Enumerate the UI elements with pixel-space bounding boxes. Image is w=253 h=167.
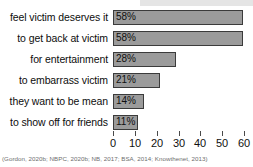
x-axis-tick (222, 131, 223, 136)
bar-they-want-to-be-mean: 14% (113, 94, 144, 109)
x-axis-tick-label: 50 (211, 137, 233, 149)
x-axis-tick-label: 10 (124, 137, 146, 149)
bar-row: feel victim deserves it 58% (0, 8, 253, 26)
bar-to-get-back-at-victim: 58% (113, 31, 243, 46)
plot-area: feel victim deserves it 58% to get back … (0, 8, 253, 132)
bar-row: to embarrass victim 21% (0, 71, 253, 89)
bar-chart: feel victim deserves it 58% to get back … (0, 0, 253, 167)
bar-value-label: 21% (114, 75, 136, 85)
bar-row: they want to be mean 14% (0, 92, 253, 110)
bar-value-label: 14% (114, 96, 136, 106)
x-axis-tick (113, 131, 114, 136)
bar-row: to show off for friends 11% (0, 113, 253, 131)
x-axis-tick (244, 131, 245, 136)
x-axis-tick (135, 131, 136, 136)
bar-value-label: 58% (114, 33, 136, 43)
category-label: to show off for friends (0, 117, 108, 128)
category-label: they want to be mean (0, 96, 108, 107)
category-label: to embarrass victim (0, 75, 108, 86)
x-axis-tick-label: 30 (168, 137, 190, 149)
x-axis-tick (179, 131, 180, 136)
bar-value-label: 58% (114, 12, 136, 22)
x-axis: 0 10 20 30 40 50 60 (0, 131, 253, 153)
bar-to-embarrass-victim: 21% (113, 73, 160, 88)
source-citation: (Gordon, 2020b; NBPC, 2020b; NB, 2017; B… (2, 155, 208, 163)
category-label: to get back at victim (0, 33, 108, 44)
x-axis-tick (200, 131, 201, 136)
x-axis-tick-label: 60 (233, 137, 253, 149)
bar-row: for entertainment 28% (0, 50, 253, 68)
bar-row: to get back at victim 58% (0, 29, 253, 47)
bar-to-show-off-for-friends: 11% (113, 115, 138, 130)
x-axis-tick-label: 40 (189, 137, 211, 149)
category-label: for entertainment (0, 54, 108, 65)
top-edge-artifact (140, 0, 253, 6)
x-axis-tick-label: 20 (146, 137, 168, 149)
bar-value-label: 11% (114, 117, 135, 127)
x-axis-tick (157, 131, 158, 136)
category-label: feel victim deserves it (0, 12, 108, 23)
x-axis-tick-label: 0 (102, 137, 124, 149)
bar-for-entertainment: 28% (113, 52, 176, 67)
bar-value-label: 28% (114, 54, 136, 64)
bar-feel-victim-deserves-it: 58% (113, 10, 243, 25)
